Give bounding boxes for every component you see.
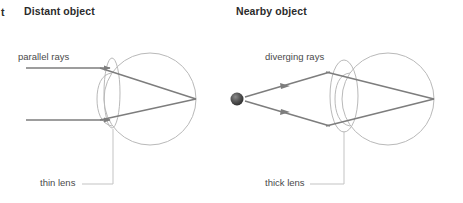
diverging-ray-upper [245,72,330,97]
panel-title-nearby-object: Nearby object [236,5,307,17]
diagram-canvas [0,0,463,203]
nearby-object-eye-group [231,53,435,184]
panel-title-distant-object: Distant object [24,5,95,17]
refracted-ray-upper-left [100,68,196,99]
label-parallel-rays: parallel rays [18,51,69,62]
thick-lens-leader-line [310,131,344,184]
eyeball-outline-right [342,53,434,145]
label-thin-lens: thin lens [40,177,75,188]
nearby-object-sphere [231,93,244,106]
thin-lens-leader-line [82,129,113,184]
optics-accommodation-diagram: t Distant object Nearby object parallel … [0,0,463,203]
cropped-edge-text-fragment: t [1,6,5,18]
diverging-ray-lower [245,101,330,126]
distant-object-eye-group [26,53,196,184]
refracted-ray-lower-left [100,99,196,120]
label-diverging-rays: diverging rays [265,51,324,62]
label-thick-lens: thick lens [265,177,305,188]
